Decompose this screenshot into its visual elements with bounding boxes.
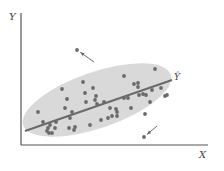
data-point: [132, 82, 136, 86]
data-point: [122, 74, 126, 78]
data-point: [115, 114, 119, 118]
outlier-point: [75, 48, 79, 52]
data-point: [159, 86, 163, 90]
data-point: [67, 126, 71, 130]
data-point: [53, 126, 57, 130]
data-point: [84, 100, 88, 104]
data-point: [108, 106, 112, 110]
regression-label: Ŷ: [174, 71, 181, 82]
data-point: [65, 97, 69, 101]
data-point: [136, 85, 140, 89]
data-point: [91, 86, 95, 90]
y-axis-label: Y: [9, 11, 17, 22]
data-point: [63, 106, 67, 110]
data-point: [88, 123, 92, 127]
outlier-point: [142, 135, 146, 139]
data-point: [137, 93, 141, 97]
data-point: [110, 114, 114, 118]
data-point: [73, 125, 77, 129]
data-point: [115, 110, 119, 114]
confidence-ellipse: [14, 48, 180, 152]
data-point: [93, 98, 97, 102]
data-point: [94, 94, 98, 98]
data-point: [165, 93, 169, 97]
data-point: [143, 112, 147, 116]
data-point: [106, 116, 110, 120]
data-point: [136, 81, 140, 85]
data-point: [148, 100, 152, 104]
data-point: [99, 118, 103, 122]
data-point: [36, 110, 40, 114]
data-point: [144, 93, 148, 97]
x-axis-label: X: [198, 149, 207, 160]
data-point: [50, 131, 54, 135]
arrowhead-icon: [80, 52, 84, 56]
scatter-regression-chart: Y X Ŷ: [0, 0, 224, 171]
ellipse-shape: [14, 48, 180, 152]
data-point: [60, 87, 64, 91]
data-point: [150, 88, 154, 92]
data-point: [153, 67, 157, 71]
data-point: [81, 80, 85, 84]
data-point: [129, 106, 133, 110]
data-point: [83, 91, 87, 95]
